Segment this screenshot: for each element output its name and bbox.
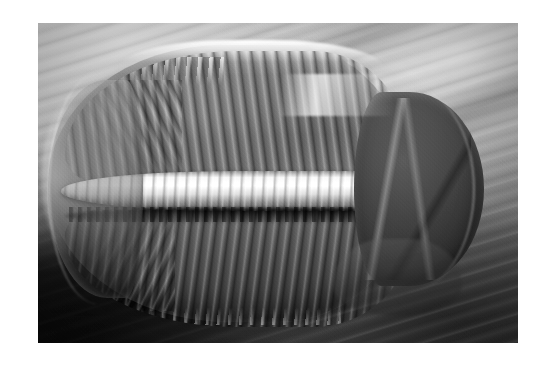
genal-band: [333, 239, 463, 316]
photo-caption: [0, 0, 1, 1]
cephalon-thorax-notch-highlight: [281, 74, 393, 115]
trilobite-body: [48, 39, 480, 333]
trilobite-fossil-photograph: [38, 23, 518, 343]
shell-margin-highlight-lower: [141, 306, 341, 325]
page-canvas: [0, 0, 551, 366]
